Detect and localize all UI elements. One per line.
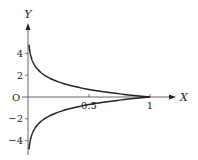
upper-curve [29, 45, 150, 97]
x-axis-arrow-icon [169, 95, 176, 100]
y-axis-arrow-icon [26, 23, 31, 30]
x-tick-label: 0.5 [81, 100, 97, 111]
axes [22, 23, 176, 155]
x-tick-label: 1 [147, 100, 153, 111]
labels: 0.5142−2−4OXY [8, 8, 189, 146]
y-tick-label: 4 [17, 48, 23, 59]
y-tick-label: 2 [17, 70, 23, 81]
y-tick-label: −4 [8, 135, 23, 146]
origin-label: O [12, 92, 20, 103]
y-axis-label: Y [24, 8, 33, 21]
x-axis-label: X [179, 91, 189, 104]
y-tick-label: −2 [8, 113, 23, 124]
chart-plot-area: 0.5142−2−4OXY [0, 0, 198, 160]
